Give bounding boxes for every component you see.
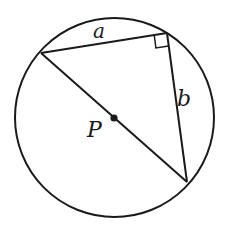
label-b: b — [177, 86, 191, 111]
circle-diagram: a b P — [0, 0, 226, 234]
diagram-canvas: a b P — [0, 0, 226, 234]
center-point-p — [110, 114, 117, 121]
label-p: P — [86, 117, 103, 142]
label-a: a — [93, 19, 105, 43]
